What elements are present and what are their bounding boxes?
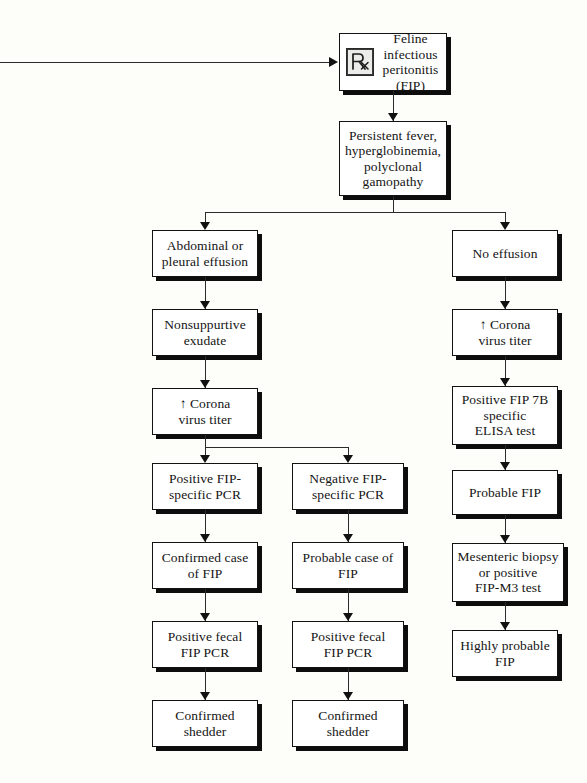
node-positive-fip-pcr[interactable]: Positive FIP- specific PCR xyxy=(152,463,258,510)
connector-signs-stem xyxy=(393,196,394,213)
rx-prescription-icon xyxy=(346,48,374,76)
node-no-effusion[interactable]: No effusion xyxy=(452,230,558,277)
node-clinical-signs[interactable]: Persistent fever, hyperglobinemia, polyc… xyxy=(339,121,447,196)
node-corona-titer-right-label: ↑ Corona virus titer xyxy=(478,317,531,348)
arrowhead-shedder-left xyxy=(200,692,210,700)
node-root-fip[interactable]: Feline infectious peritonitis (FIP) xyxy=(339,33,447,91)
connector-signs-split-bar xyxy=(205,212,505,213)
node-root-fip-label: Feline infectious peritonitis (FIP) xyxy=(379,31,442,93)
arrowhead-pcr-pos xyxy=(200,455,210,463)
node-mesenteric-biopsy-label: Mesenteric biopsy or positive FIP-M3 tes… xyxy=(457,549,558,596)
flowchart-canvas: Feline infectious peritonitis (FIP) Pers… xyxy=(0,0,587,783)
node-positive-fecal-pcr-mid-label: Positive fecal FIP PCR xyxy=(311,629,386,660)
node-nonsuppurtive-exudate[interactable]: Nonsuppurtive exudate xyxy=(152,309,258,356)
node-fip-7b-elisa-label: Positive FIP 7B specific ELISA test xyxy=(462,392,549,439)
node-positive-fip-pcr-label: Positive FIP- specific PCR xyxy=(169,471,241,502)
arrowhead-incoming xyxy=(329,57,338,67)
node-confirmed-case-fip-label: Confirmed case of FIP xyxy=(162,550,249,581)
node-mesenteric-biopsy[interactable]: Mesenteric biopsy or positive FIP-M3 tes… xyxy=(452,543,564,602)
arrowhead-no-effusion xyxy=(500,222,510,230)
node-no-effusion-label: No effusion xyxy=(473,246,538,262)
node-corona-titer-left-label: ↑ Corona virus titer xyxy=(178,396,231,427)
node-confirmed-shedder-left[interactable]: Confirmed shedder xyxy=(152,700,258,747)
arrowhead-shedder-mid xyxy=(343,692,353,700)
node-corona-titer-right[interactable]: ↑ Corona virus titer xyxy=(452,309,558,356)
node-fip-7b-elisa[interactable]: Positive FIP 7B specific ELISA test xyxy=(452,386,558,445)
arrowhead-pcr-neg xyxy=(343,455,353,463)
node-probable-fip-label: Probable FIP xyxy=(469,485,541,501)
node-clinical-signs-label: Persistent fever, hyperglobinemia, polyc… xyxy=(345,128,441,190)
node-nonsuppurtive-exudate-label: Nonsuppurtive exudate xyxy=(164,317,246,348)
node-negative-fip-pcr[interactable]: Negative FIP- specific PCR xyxy=(292,463,404,510)
node-probable-case-fip[interactable]: Probable case of FIP xyxy=(292,542,404,589)
arrowhead-probable-case xyxy=(343,534,353,542)
connector-incoming-line xyxy=(0,62,330,63)
node-positive-fecal-pcr-left[interactable]: Positive fecal FIP PCR xyxy=(152,621,258,668)
node-effusion-label: Abdominal or pleural effusion xyxy=(162,238,248,269)
arrowhead-highly-probable xyxy=(500,622,510,630)
node-confirmed-case-fip[interactable]: Confirmed case of FIP xyxy=(152,542,258,589)
node-confirmed-shedder-mid-label: Confirmed shedder xyxy=(318,708,377,739)
node-corona-titer-left[interactable]: ↑ Corona virus titer xyxy=(152,388,258,435)
node-negative-fip-pcr-label: Negative FIP- specific PCR xyxy=(309,471,386,502)
arrowhead-fecal-left xyxy=(200,613,210,621)
node-effusion[interactable]: Abdominal or pleural effusion xyxy=(152,230,258,277)
node-positive-fecal-pcr-mid[interactable]: Positive fecal FIP PCR xyxy=(292,621,404,668)
arrowhead-fecal-mid xyxy=(343,613,353,621)
arrowhead-biopsy xyxy=(500,535,510,543)
node-probable-fip[interactable]: Probable FIP xyxy=(452,470,558,515)
node-confirmed-shedder-left-label: Confirmed shedder xyxy=(175,708,234,739)
arrowhead-probable-fip xyxy=(500,462,510,470)
arrowhead-confirmed-case xyxy=(200,534,210,542)
connector-titer-split-bar xyxy=(205,447,349,448)
arrowhead-titer-right xyxy=(500,301,510,309)
node-confirmed-shedder-mid[interactable]: Confirmed shedder xyxy=(292,700,404,747)
node-highly-probable-fip[interactable]: Highly probable FIP xyxy=(452,630,558,677)
arrowhead-elisa xyxy=(500,378,510,386)
arrowhead-signs xyxy=(388,113,398,121)
node-highly-probable-fip-label: Highly probable FIP xyxy=(460,638,550,669)
arrowhead-exudate xyxy=(200,301,210,309)
node-probable-case-fip-label: Probable case of FIP xyxy=(303,550,394,581)
arrowhead-effusion xyxy=(200,222,210,230)
node-positive-fecal-pcr-left-label: Positive fecal FIP PCR xyxy=(168,629,243,660)
arrowhead-titer-left xyxy=(200,380,210,388)
